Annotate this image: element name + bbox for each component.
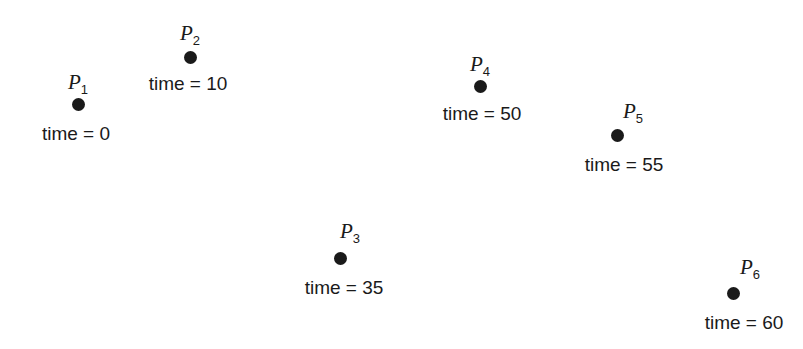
point-caption-p5: time = 55 <box>585 155 664 174</box>
point-marker-p6 <box>727 287 740 300</box>
point-caption-p3: time = 35 <box>305 278 384 297</box>
point-label-p5: P5 <box>623 101 643 122</box>
point-label-subscript: 5 <box>636 111 643 126</box>
point-marker-p1 <box>72 98 85 111</box>
point-label-base: P <box>740 255 753 279</box>
point-caption-p6: time = 60 <box>705 313 784 332</box>
point-label-base: P <box>623 99 636 123</box>
point-marker-p3 <box>334 252 347 265</box>
point-label-p6: P6 <box>740 257 760 278</box>
point-marker-p4 <box>474 80 487 93</box>
point-label-base: P <box>180 21 193 45</box>
point-label-base: P <box>68 70 81 94</box>
point-label-p2: P2 <box>180 23 200 44</box>
point-label-subscript: 2 <box>193 33 200 48</box>
point-caption-p4: time = 50 <box>443 104 522 123</box>
scatter-figure: P1time = 0P2time = 10P3time = 35P4time =… <box>0 0 803 349</box>
point-label-base: P <box>470 52 483 76</box>
point-label-p4: P4 <box>470 54 490 75</box>
point-caption-p2: time = 10 <box>149 74 228 93</box>
point-label-subscript: 1 <box>81 82 88 97</box>
point-label-p3: P3 <box>340 221 360 242</box>
point-label-p1: P1 <box>68 72 88 93</box>
point-label-subscript: 6 <box>753 267 760 282</box>
point-marker-p2 <box>184 51 197 64</box>
point-caption-p1: time = 0 <box>42 124 110 143</box>
point-label-base: P <box>340 219 353 243</box>
point-label-subscript: 3 <box>353 231 360 246</box>
point-marker-p5 <box>611 129 624 142</box>
point-label-subscript: 4 <box>483 64 490 79</box>
